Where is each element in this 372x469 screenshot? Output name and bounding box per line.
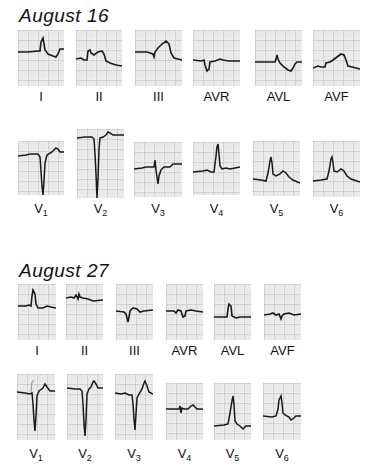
ecg-panel-aug27-AVF [264,284,301,340]
ecg-panel-aug16-AVL [255,30,302,86]
lead-label-aug16-III: III [135,89,182,104]
lead-label-aug27-III: III [116,343,153,358]
lead-label-aug16-AVL: AVL [255,89,302,104]
ecg-trace-aug16-AVL [255,30,302,86]
ecg-panel-aug16-AVF [313,30,360,86]
lead-label-aug16-V6: V6 [313,201,360,218]
lead-label-aug27-AVF: AVF [264,343,301,358]
ecg-panel-aug16-III [135,30,182,86]
ecg-trace-aug27-AVL [214,284,251,340]
ecg-panel-aug16-AVR [193,30,240,86]
ecg-trace-aug16-V1 [18,141,64,195]
ecg-panel-aug27-V4 [166,383,203,440]
ecg-trace-aug16-V6 [313,141,360,197]
ecg-trace-aug27-III [116,284,153,340]
lead-label-aug16-V5: V5 [253,201,300,218]
ecg-trace-aug27-I [18,284,56,340]
lead-label-aug27-AVR: AVR [166,343,203,358]
ecg-panel-aug27-V6 [263,383,301,440]
lead-label-aug27-V1: V1 [17,446,55,463]
ecg-trace-aug27-II [66,284,103,340]
ecg-panel-aug27-AVL [214,284,251,340]
lead-label-aug27-I: I [18,343,56,358]
ecg-panel-aug16-V5 [253,141,300,196]
ecg-trace-aug16-AVF [313,30,360,86]
ecg-trace-aug16-V2 [77,129,124,198]
ecg-panel-aug16-I [18,30,64,86]
lead-label-aug27-V2: V2 [67,446,103,463]
ecg-trace-aug27-V1 [17,374,55,440]
section-title-aug27: August 27 [19,260,109,282]
lead-label-aug16-I: I [18,89,64,104]
ecg-panel-aug27-V3 [115,374,153,440]
lead-label-aug27-V3: V3 [115,446,153,463]
ecg-panel-aug16-V2 [77,129,124,198]
lead-label-aug16-V2: V2 [77,201,124,218]
ecg-trace-aug27-AVR [166,284,203,340]
ecg-trace-aug27-V3 [115,374,153,440]
lead-label-aug27-II: II [66,343,103,358]
ecg-trace-aug16-V4 [193,142,240,195]
ecg-panel-aug16-II [76,30,122,86]
ecg-panel-aug16-V6 [313,141,360,197]
ecg-trace-aug27-V2 [67,374,103,440]
ecg-panel-aug27-III [116,284,153,340]
ecg-panel-aug16-V1 [18,141,64,195]
ecg-panel-aug27-V1 [17,374,55,440]
lead-label-aug16-AVF: AVF [313,89,360,104]
ecg-trace-aug27-V6 [263,383,301,440]
ecg-trace-aug27-V5 [214,383,251,440]
lead-label-aug16-V3: V3 [134,201,182,218]
ecg-trace-aug27-AVF [264,284,301,340]
lead-label-aug16-II: II [76,89,122,104]
lead-label-aug16-AVR: AVR [193,89,240,104]
ecg-trace-aug16-III [135,30,182,86]
lead-label-aug27-V4: V4 [166,446,203,463]
ecg-trace-aug16-II [76,30,122,86]
ecg-panel-aug27-V2 [67,374,103,440]
ecg-trace-aug16-AVR [193,30,240,86]
ecg-panel-aug16-V4 [193,142,240,195]
ecg-panel-aug16-V3 [134,142,182,197]
ecg-trace-aug27-V4 [166,383,203,440]
ecg-panel-aug27-II [66,284,103,340]
ecg-panel-aug27-AVR [166,284,203,340]
lead-label-aug27-V5: V5 [214,446,251,463]
ecg-panel-aug27-V5 [214,383,251,440]
lead-label-aug27-V6: V6 [263,446,301,463]
ecg-trace-aug16-V3 [134,142,182,197]
ecg-panel-aug27-I [18,284,56,340]
lead-label-aug16-V4: V4 [193,201,240,218]
lead-label-aug27-AVL: AVL [214,343,251,358]
ecg-trace-aug16-V5 [253,141,300,196]
section-title-aug16: August 16 [19,5,109,27]
lead-label-aug16-V1: V1 [18,201,64,218]
ecg-trace-aug16-I [18,30,64,86]
